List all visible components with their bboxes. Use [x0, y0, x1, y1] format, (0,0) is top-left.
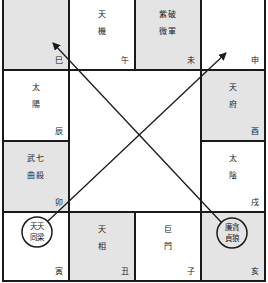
- star-names: 太 陽: [4, 79, 68, 113]
- circled-stars-yin: 天天 同梁: [22, 221, 52, 243]
- star-line-1: 紫破: [136, 6, 200, 23]
- branch-label: 卯: [55, 198, 63, 208]
- star-names: 巨 門: [136, 221, 200, 255]
- center-area: [70, 71, 200, 211]
- branch-label: 未: [187, 56, 195, 66]
- star-line-2: 貞狼: [217, 233, 247, 244]
- star-line-2: 曲殺: [4, 167, 68, 184]
- star-names: 天 府: [202, 79, 264, 113]
- branch-label: 子: [187, 267, 195, 277]
- star-line-2: 陽: [4, 96, 68, 113]
- palace-chou: 天 相 丑: [68, 211, 136, 282]
- star-line-1: 天: [70, 6, 134, 23]
- branch-label: 申: [251, 56, 259, 66]
- palace-chen: 太 陽 辰: [2, 69, 70, 142]
- branch-label: 丑: [121, 267, 129, 277]
- palace-si: 巳: [2, 0, 70, 71]
- star-names: 武七 曲殺: [4, 150, 68, 184]
- star-line-1: 天: [202, 79, 264, 96]
- branch-label: 亥: [251, 267, 259, 277]
- star-line-2: 機: [70, 23, 134, 40]
- star-line-1: 巨: [136, 221, 200, 238]
- star-names: 太 陰: [202, 150, 264, 184]
- branch-label: 寅: [55, 267, 63, 277]
- star-names: 紫破 微軍: [136, 6, 200, 40]
- star-line-2: 門: [136, 238, 200, 255]
- star-names: 天 相: [70, 221, 134, 255]
- palace-zi: 巨 門 子: [134, 211, 202, 282]
- circled-stars-hai: 廉貪 貞狼: [217, 222, 247, 244]
- palace-xu: 太 陰 戌: [200, 140, 266, 213]
- star-line-2: 同梁: [22, 232, 52, 243]
- star-line-2: 陰: [202, 167, 264, 184]
- palace-wei: 紫破 微軍 未: [134, 0, 202, 71]
- branch-label: 巳: [55, 56, 63, 66]
- palace-you: 天 府 酉: [200, 69, 266, 142]
- branch-label: 戌: [251, 198, 259, 208]
- star-line-1: 太: [202, 150, 264, 167]
- palace-mao: 武七 曲殺 卯: [2, 140, 70, 213]
- star-line-1: 廉貪: [217, 222, 247, 233]
- star-line-2: 微軍: [136, 23, 200, 40]
- star-names: 天 機: [70, 6, 134, 40]
- palace-wu: 天 機 午: [68, 0, 136, 71]
- palace-shen: 申: [200, 0, 266, 71]
- branch-label: 酉: [251, 127, 259, 137]
- star-line-1: 天: [70, 221, 134, 238]
- branch-label: 午: [121, 56, 129, 66]
- star-line-1: 太: [4, 79, 68, 96]
- star-line-2: 府: [202, 96, 264, 113]
- star-line-2: 相: [70, 238, 134, 255]
- branch-label: 辰: [55, 127, 63, 137]
- star-line-1: 武七: [4, 150, 68, 167]
- star-line-1: 天天: [22, 221, 52, 232]
